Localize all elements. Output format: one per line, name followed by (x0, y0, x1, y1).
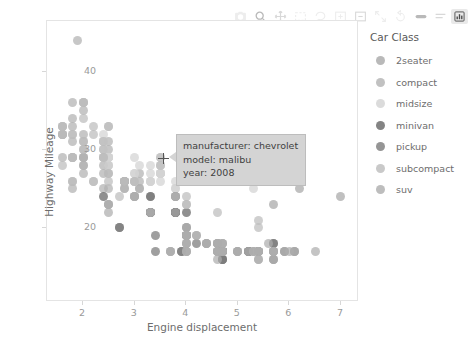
scatter-point[interactable] (213, 208, 222, 217)
tooltip-line-manufacturer: manufacturer: chevrolet (183, 139, 298, 153)
tooltip-line-model: model: malibu (183, 153, 298, 167)
scatter-point[interactable] (269, 200, 278, 209)
legend-item-label: compact (396, 77, 437, 88)
scatter-point[interactable] (182, 247, 191, 256)
legend-item-label: 2seater (396, 55, 432, 66)
scatter-point[interactable] (151, 247, 160, 256)
scatter-point[interactable] (166, 247, 175, 256)
scatter-point[interactable] (89, 177, 98, 186)
legend-item-label: subcompact (396, 163, 454, 174)
scatter-point[interactable] (254, 216, 263, 225)
x-axis-tick-label: 7 (337, 307, 343, 318)
scatter-point[interactable] (58, 161, 67, 170)
y-axis-tick-mark (42, 227, 46, 228)
x-axis-tick-mark (134, 301, 135, 305)
toggle-spike-lines-icon[interactable] (411, 7, 430, 25)
legend-item-label: suv (396, 184, 413, 195)
x-axis-tick-label: 6 (285, 307, 291, 318)
hover-compare-icon[interactable] (431, 7, 450, 25)
scatter-point[interactable] (254, 255, 263, 264)
scatter-point[interactable] (68, 130, 77, 139)
scatter-point[interactable] (79, 153, 88, 162)
reset-axes-icon[interactable] (391, 7, 410, 25)
scatter-point[interactable] (115, 223, 124, 232)
legend-item-compact[interactable]: compact (368, 72, 470, 94)
x-axis-tick-mark (340, 301, 341, 305)
plot-root: 203040 234567 Highway Mileage Engine dis… (0, 0, 470, 343)
x-axis-tick-label: 4 (182, 307, 188, 318)
scatter-point[interactable] (104, 122, 113, 131)
scatter-point[interactable] (68, 153, 77, 162)
scatter-point[interactable] (104, 177, 113, 186)
legend-marker-icon (376, 142, 385, 151)
x-axis-label: Engine displacement (46, 321, 358, 333)
legend-item-minivan[interactable]: minivan (368, 115, 470, 137)
legend: Car Class 2seatercompactmidsizeminivanpi… (368, 31, 470, 201)
scatter-point[interactable] (311, 247, 320, 256)
scatter-point[interactable] (171, 192, 180, 201)
scatter-point[interactable] (68, 177, 77, 186)
plotly-logo-icon[interactable] (451, 9, 468, 24)
legend-item-2seater[interactable]: 2seater (368, 50, 470, 72)
scatter-point[interactable] (120, 177, 129, 186)
scatter-point[interactable] (115, 192, 124, 201)
scatter-point[interactable] (68, 137, 77, 146)
scatter-point[interactable] (146, 192, 155, 201)
scatter-point[interactable] (73, 36, 82, 45)
y-axis-tick-mark (42, 71, 46, 72)
legend-items: 2seatercompactmidsizeminivanpickupsubcom… (368, 50, 470, 201)
scatter-point[interactable] (192, 231, 201, 240)
scatter-point[interactable] (182, 200, 191, 209)
legend-item-label: pickup (396, 141, 427, 152)
tooltip-notch (169, 152, 176, 162)
scatter-point[interactable] (192, 239, 201, 248)
scatter-point[interactable] (68, 184, 77, 193)
scatter-point[interactable] (269, 255, 278, 264)
legend-item-subcompact[interactable]: subcompact (368, 158, 470, 180)
scatter-point[interactable] (156, 169, 165, 178)
legend-marker-icon (376, 99, 385, 108)
scatter-point[interactable] (79, 161, 88, 170)
y-axis-tick-label: 20 (84, 221, 96, 232)
legend-item-midsize[interactable]: midsize (368, 93, 470, 115)
legend-marker-icon (376, 78, 385, 87)
scatter-point[interactable] (79, 114, 88, 123)
scatter-point[interactable] (233, 247, 242, 256)
x-axis-tick-mark (237, 301, 238, 305)
legend-item-label: midsize (396, 98, 432, 109)
scatter-point[interactable] (104, 208, 113, 217)
legend-item-suv[interactable]: suv (368, 179, 470, 201)
hover-crosshair-marker (158, 153, 169, 164)
scatter-point[interactable] (79, 169, 88, 178)
scatter-point[interactable] (213, 255, 222, 264)
autoscale-icon[interactable] (371, 7, 390, 25)
scatter-point[interactable] (58, 130, 67, 139)
scatter-point[interactable] (89, 130, 98, 139)
y-axis-tick-label: 40 (84, 65, 96, 76)
scatter-point[interactable] (146, 208, 155, 217)
legend-marker-icon (376, 164, 385, 173)
scatter-point[interactable] (254, 223, 263, 232)
scatter-point[interactable] (104, 200, 113, 209)
scatter-point[interactable] (130, 192, 139, 201)
legend-item-pickup[interactable]: pickup (368, 136, 470, 158)
legend-marker-icon (376, 121, 385, 130)
scatter-point[interactable] (156, 177, 165, 186)
scatter-point[interactable] (130, 177, 139, 186)
scatter-point[interactable] (171, 208, 180, 217)
scatter-point[interactable] (182, 208, 191, 217)
x-axis-tick-label: 5 (234, 307, 240, 318)
scatter-point[interactable] (135, 161, 144, 170)
scatter-point[interactable] (146, 177, 155, 186)
x-axis-tick-mark (82, 301, 83, 305)
scatter-point[interactable] (295, 184, 304, 193)
scatter-point[interactable] (68, 98, 77, 107)
scatter-point[interactable] (202, 239, 211, 248)
scatter-point[interactable] (290, 247, 299, 256)
scatter-point[interactable] (151, 231, 160, 240)
scatter-point[interactable] (249, 184, 258, 193)
y-axis-tick-label: 30 (84, 143, 96, 154)
scatter-point[interactable] (104, 169, 113, 178)
scatter-point[interactable] (336, 192, 345, 201)
scatter-point[interactable] (218, 247, 227, 256)
